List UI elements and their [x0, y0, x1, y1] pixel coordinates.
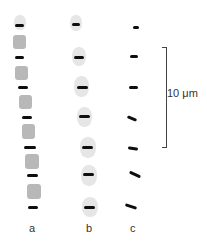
column-a-band	[24, 146, 36, 149]
column-c-band	[125, 203, 137, 210]
column-a-block	[15, 66, 28, 80]
column-a-block	[19, 95, 32, 109]
column-c-band	[128, 146, 138, 150]
column-b-label: b	[86, 222, 92, 234]
column-a-band	[22, 116, 32, 119]
column-b-band	[79, 115, 90, 118]
column-a-band	[15, 24, 24, 27]
column-b-band	[84, 206, 95, 209]
column-a-block	[13, 35, 26, 49]
column-b-band	[82, 146, 93, 149]
column-b-band	[77, 86, 88, 89]
column-c-band	[129, 86, 138, 89]
column-c-label: c	[130, 222, 136, 234]
column-a-label: a	[29, 222, 35, 234]
column-c-band	[133, 26, 139, 29]
column-b-band	[74, 56, 84, 59]
column-a-band	[27, 174, 38, 177]
column-a-block	[22, 124, 35, 139]
column-a-band	[28, 206, 38, 209]
column-a-block	[27, 184, 41, 199]
micrograph-figure: a b c 10 μm	[0, 0, 207, 243]
column-a-top-halo	[14, 15, 26, 30]
column-c-band	[130, 55, 138, 58]
column-c-band	[129, 171, 141, 179]
column-b-band	[72, 23, 80, 26]
column-a-band	[15, 56, 24, 59]
column-c-band	[127, 115, 137, 122]
column-a-band	[18, 86, 28, 89]
column-b-band	[83, 173, 94, 176]
column-a-block	[25, 154, 39, 169]
scale-bar-label: 10 μm	[167, 87, 198, 99]
